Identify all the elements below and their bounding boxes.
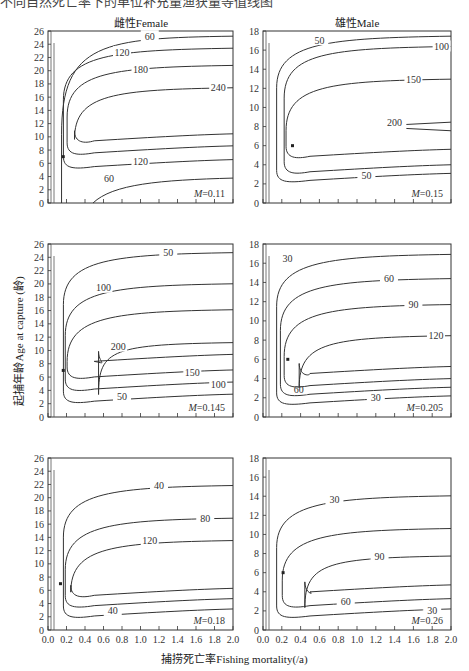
svg-text:4: 4 <box>254 373 259 384</box>
svg-text:16: 16 <box>249 258 259 269</box>
svg-text:14: 14 <box>34 318 44 329</box>
svg-text:6: 6 <box>254 354 259 365</box>
contour-label: 80 <box>200 513 210 524</box>
svg-text:0.2: 0.2 <box>60 634 73 645</box>
svg-text:0.8: 0.8 <box>116 634 129 645</box>
svg-text:1.2: 1.2 <box>153 634 166 645</box>
svg-text:2: 2 <box>39 184 44 195</box>
svg-text:1.4: 1.4 <box>171 634 184 645</box>
svg-text:18: 18 <box>249 239 259 250</box>
svg-text:0.8: 0.8 <box>332 634 345 645</box>
contour-label: 40 <box>154 480 164 491</box>
contour-panel-3: 024681012141618202224265050100100150200M… <box>34 239 233 423</box>
y-axis-label: 起捕年龄Age at capture (龄) <box>10 251 26 431</box>
svg-text:1.2: 1.2 <box>370 634 383 645</box>
svg-text:22: 22 <box>34 479 44 490</box>
contour-label: 120 <box>428 330 443 341</box>
svg-text:10: 10 <box>34 558 44 569</box>
contour-panel-5: 024681012141618202224260.00.20.40.60.81.… <box>34 453 239 646</box>
m-annotation: M=0.26 <box>411 615 443 626</box>
contour-label: 150 <box>406 74 421 85</box>
contour-label: 60 <box>145 31 155 42</box>
contour-label: 60 <box>384 273 394 284</box>
svg-text:2: 2 <box>254 178 259 189</box>
contour-label: 120 <box>133 156 148 167</box>
svg-text:4: 4 <box>39 598 44 609</box>
svg-text:2: 2 <box>39 611 44 622</box>
contour-label: 100 <box>434 41 449 52</box>
contour-label: 180 <box>133 64 148 75</box>
svg-text:18: 18 <box>249 453 259 464</box>
svg-text:4: 4 <box>254 586 259 597</box>
svg-text:8: 8 <box>254 121 259 132</box>
svg-text:16: 16 <box>34 305 44 316</box>
svg-text:26: 26 <box>34 453 44 464</box>
contour-label: 30 <box>371 392 381 403</box>
contour-label: 200 <box>387 117 402 128</box>
svg-text:20: 20 <box>34 65 44 76</box>
svg-text:14: 14 <box>34 532 44 543</box>
contour-label: 120 <box>115 47 130 58</box>
svg-text:10: 10 <box>249 102 259 113</box>
svg-text:8: 8 <box>39 358 44 369</box>
contour-label: 100 <box>96 282 111 293</box>
svg-text:16: 16 <box>249 472 259 483</box>
m-annotation: M=0.145 <box>188 402 225 413</box>
svg-text:14: 14 <box>249 277 259 288</box>
svg-text:6: 6 <box>254 567 259 578</box>
svg-text:6: 6 <box>254 140 259 151</box>
contour-label: 200 <box>111 341 126 352</box>
svg-text:0: 0 <box>39 412 44 423</box>
svg-text:16: 16 <box>34 519 44 530</box>
svg-text:10: 10 <box>34 345 44 356</box>
svg-text:4: 4 <box>39 385 44 396</box>
svg-text:2: 2 <box>254 392 259 403</box>
m-annotation: M=0.11 <box>193 188 225 199</box>
svg-text:6: 6 <box>39 372 44 383</box>
svg-text:10: 10 <box>249 315 259 326</box>
svg-text:16: 16 <box>34 92 44 103</box>
contour-label: 120 <box>142 535 157 546</box>
contour-label: 30 <box>282 253 292 264</box>
svg-text:10: 10 <box>34 131 44 142</box>
svg-text:16: 16 <box>249 45 259 56</box>
contour-panel-2: 0246810121416185050100150200M=0.15 <box>249 26 451 209</box>
svg-text:1.0: 1.0 <box>351 634 364 645</box>
svg-text:1.4: 1.4 <box>388 634 401 645</box>
contour-label: 240 <box>211 82 226 93</box>
svg-text:4: 4 <box>254 159 259 170</box>
svg-text:14: 14 <box>34 105 44 116</box>
contour-label: 50 <box>361 170 371 181</box>
optimum-point-marker <box>291 144 294 147</box>
svg-text:14: 14 <box>249 491 259 502</box>
svg-text:2.0: 2.0 <box>227 634 240 645</box>
contour-label: 40 <box>108 605 118 616</box>
contour-label: 90 <box>408 299 418 310</box>
svg-text:0: 0 <box>39 198 44 209</box>
svg-text:24: 24 <box>34 252 44 263</box>
svg-text:8: 8 <box>39 145 44 156</box>
contour-label: 90 <box>375 551 385 562</box>
svg-text:18: 18 <box>34 78 44 89</box>
optimum-point-marker <box>62 369 65 372</box>
svg-text:24: 24 <box>34 39 44 50</box>
svg-text:12: 12 <box>34 118 44 129</box>
svg-text:18: 18 <box>34 505 44 516</box>
svg-text:6: 6 <box>39 158 44 169</box>
svg-text:1.6: 1.6 <box>190 634 203 645</box>
svg-text:0.4: 0.4 <box>294 634 307 645</box>
svg-text:2: 2 <box>254 605 259 616</box>
svg-text:12: 12 <box>249 83 259 94</box>
svg-text:0.6: 0.6 <box>313 634 326 645</box>
svg-text:6: 6 <box>39 585 44 596</box>
contour-label: 60 <box>341 596 351 607</box>
contour-chart-grid: 024681012141618202224266012012018024060M… <box>0 0 469 671</box>
svg-text:1.8: 1.8 <box>208 634 221 645</box>
contour-label: 60 <box>104 173 114 184</box>
svg-text:1.0: 1.0 <box>134 634 147 645</box>
svg-text:2.0: 2.0 <box>445 634 458 645</box>
svg-text:0.6: 0.6 <box>97 634 110 645</box>
optimum-point-marker <box>282 571 285 574</box>
optimum-point-marker <box>59 582 62 585</box>
m-annotation: M=0.18 <box>193 615 225 626</box>
